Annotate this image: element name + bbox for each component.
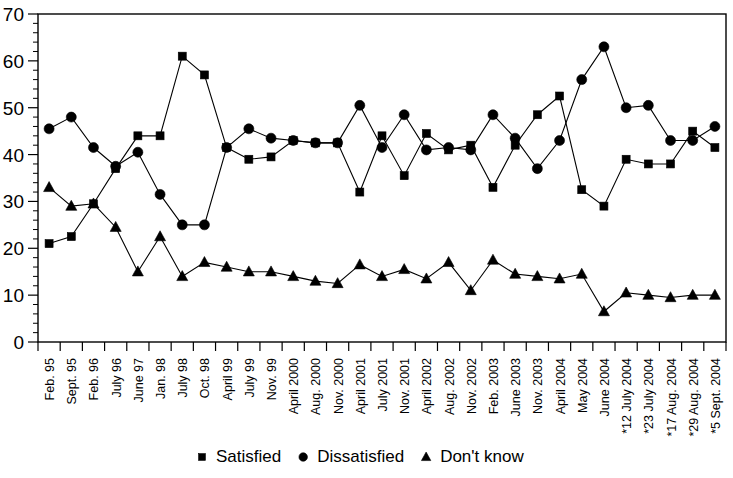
marker-square (267, 153, 275, 161)
marker-circle (621, 103, 631, 113)
marker-square (356, 188, 364, 196)
marker-square (600, 202, 608, 210)
x-axis-tick-label: Jan. 98 (154, 358, 168, 399)
marker-circle (288, 136, 298, 146)
data-series-group (44, 42, 721, 316)
y-axis-tick-label: 0 (13, 332, 24, 353)
marker-triangle (443, 257, 454, 267)
x-axis-tick-label: April 2000 (287, 358, 301, 414)
marker-circle (555, 136, 565, 146)
marker-circle (133, 147, 143, 157)
marker-triangle (155, 231, 166, 241)
marker-circle (222, 143, 232, 153)
marker-square (245, 155, 253, 163)
y-axis-tick-label: 60 (3, 51, 24, 72)
marker-triangle (177, 271, 188, 281)
marker-circle (310, 138, 320, 148)
marker-square (489, 183, 497, 191)
marker-circle (299, 453, 308, 462)
x-axis-tick-label: Feb. 95 (43, 358, 57, 400)
marker-circle (710, 121, 720, 131)
y-axis-tick-label: 40 (3, 145, 24, 166)
marker-circle (333, 138, 343, 148)
marker-square (422, 129, 430, 137)
marker-triangle (132, 266, 143, 276)
x-axis-tick-label: *12 July 2004 (620, 358, 634, 434)
marker-triangle (354, 259, 365, 269)
marker-square (622, 155, 630, 163)
marker-triangle (487, 254, 498, 264)
marker-circle (444, 143, 454, 153)
marker-triangle (199, 257, 210, 267)
marker-square (199, 454, 206, 461)
marker-square (644, 160, 652, 168)
x-axis-tick-label: July 2001 (376, 358, 390, 412)
x-axis-tick-label: Sept. 95 (65, 358, 79, 405)
marker-triangle (709, 289, 720, 299)
marker-circle (399, 110, 409, 120)
x-axis-tick-label: Feb. 96 (87, 358, 101, 400)
x-axis-tick-label: Nov. 2003 (531, 358, 545, 414)
x-axis-tick-label: May 2004 (576, 358, 590, 413)
x-axis-tick-label: Aug. 2002 (443, 358, 457, 415)
x-axis-tick-label: Nov. 2000 (332, 358, 346, 414)
legend-label: Satisfied (216, 447, 281, 466)
marker-circle (44, 124, 54, 134)
line-chart: 010203040506070 Feb. 95Sept. 95Feb. 96Ju… (0, 0, 733, 478)
chart-legend: SatisfiedDissatisfiedDon't know (199, 447, 525, 466)
marker-circle (244, 124, 254, 134)
marker-circle (666, 136, 676, 146)
marker-circle (643, 100, 653, 110)
legend-item-satisfied: Satisfied (199, 447, 282, 466)
x-axis-tick-label: April 2002 (420, 358, 434, 414)
marker-triangle (266, 266, 277, 276)
x-axis-tick-label: *29 Aug. 2004 (687, 358, 701, 437)
marker-triangle (421, 273, 432, 283)
y-axis-tick-label: 50 (3, 98, 24, 119)
marker-circle (466, 145, 476, 155)
x-axis-tick-label: Feb. 2003 (487, 358, 501, 414)
marker-circle (488, 110, 498, 120)
x-axis-tick-label: June 97 (132, 358, 146, 403)
x-axis-tick-label: June 2003 (509, 358, 523, 416)
y-axis-tick-label: 70 (3, 4, 24, 25)
y-axis-tick-label: 10 (3, 285, 24, 306)
y-axis: 010203040506070 (3, 4, 38, 353)
legend-label: Dissatisfied (317, 447, 404, 466)
marker-square (67, 233, 75, 241)
x-axis-tick-label: July 99 (243, 358, 257, 398)
marker-square (156, 132, 164, 140)
x-axis: Feb. 95Sept. 95Feb. 96July 96June 97Jan.… (38, 342, 726, 437)
marker-square (378, 132, 386, 140)
x-axis-tick-label: June 2004 (598, 358, 612, 416)
marker-circle (688, 136, 698, 146)
series-don-t-know (44, 182, 721, 316)
marker-square (533, 111, 541, 119)
marker-circle (177, 220, 187, 230)
marker-circle (510, 133, 520, 143)
x-axis-tick-label: *17 Aug. 2004 (665, 358, 679, 437)
x-axis-tick-label: *23 July 2004 (642, 358, 656, 434)
y-axis-tick-label: 20 (3, 238, 24, 259)
marker-square (711, 144, 719, 152)
legend-item-dissatisfied: Dissatisfied (299, 447, 404, 466)
x-axis-tick-label: Aug. 2000 (309, 358, 323, 415)
marker-square (689, 127, 697, 135)
x-axis-tick-label: Nov. 99 (265, 358, 279, 400)
series-line (49, 187, 715, 311)
chart-container: 010203040506070 Feb. 95Sept. 95Feb. 96Ju… (0, 0, 733, 478)
x-axis-tick-label: July 96 (110, 358, 124, 398)
marker-circle (532, 164, 542, 174)
marker-circle (155, 189, 165, 199)
x-axis-tick-label: April 2004 (554, 358, 568, 414)
legend-label: Don't know (440, 447, 524, 466)
marker-square (134, 132, 142, 140)
marker-triangle (421, 452, 430, 461)
marker-triangle (399, 264, 410, 274)
marker-circle (199, 220, 209, 230)
marker-triangle (44, 182, 55, 192)
marker-circle (66, 112, 76, 122)
x-axis-tick-label: April 99 (221, 358, 235, 400)
marker-square (667, 160, 675, 168)
marker-circle (421, 145, 431, 155)
